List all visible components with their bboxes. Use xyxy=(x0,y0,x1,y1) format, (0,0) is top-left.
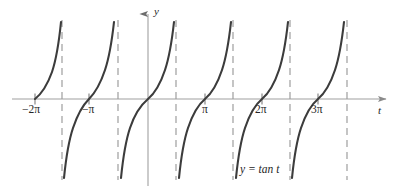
tangent-branch-negpi xyxy=(64,22,114,178)
x-tick-label-pi: π xyxy=(202,104,208,116)
x-tick-label-2pi: 2π xyxy=(255,104,267,116)
tangent-curve-group xyxy=(35,22,344,178)
x-tick-label-neg2pi: −2π xyxy=(22,104,40,116)
tangent-branch-pi xyxy=(179,22,231,178)
tangent-branch-neg2pi xyxy=(35,22,61,99)
x-tick-label-negpi: −π xyxy=(82,104,94,116)
curve-equation-label: y = tan t xyxy=(240,164,279,176)
plot-canvas xyxy=(0,0,397,193)
tangent-function-figure: −2π −π π 2π 3π t y y = tan t xyxy=(0,0,397,193)
tangent-branch-3pi xyxy=(292,22,344,178)
tangent-branch-2pi xyxy=(236,22,288,178)
axis-group xyxy=(12,14,386,186)
x-axis-label: t xyxy=(378,105,381,116)
x-tick-label-3pi: 3π xyxy=(311,104,323,116)
y-axis-label: y xyxy=(154,6,159,17)
